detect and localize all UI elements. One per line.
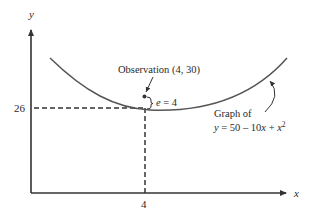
observation-pointer-arrow <box>146 77 153 92</box>
error-label: e = 4 <box>156 97 178 108</box>
x-axis-label: x <box>293 187 299 199</box>
eq-exp: 2 <box>282 120 286 129</box>
y-axis-label: y <box>28 8 34 20</box>
error-bracket-icon <box>147 97 153 109</box>
eq-mid: = 50 – 10 <box>219 122 262 133</box>
graph-pointer-arrow <box>265 81 275 112</box>
error-label-value: = 4 <box>161 97 178 108</box>
graph-equation: y = 50 – 10x + x2 <box>213 120 286 133</box>
observation-label: Observation (4, 30) <box>118 64 200 76</box>
regression-diagram: y x 26 4 Observation (4, 30) e = 4 Graph… <box>0 0 315 215</box>
graph-label-line1: Graph of <box>214 108 252 119</box>
observation-point <box>143 95 147 99</box>
y-tick-label-26: 26 <box>14 102 26 114</box>
eq-plus: + <box>266 122 277 133</box>
x-tick-label-4: 4 <box>141 198 147 210</box>
